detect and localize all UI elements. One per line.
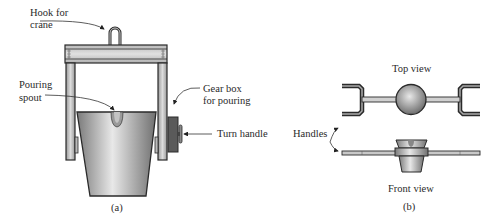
ladle-diagram: Hook for crane Pouring spout Gear box fo… (0, 0, 497, 224)
frame-left-leg (66, 63, 75, 160)
figure-a: Hook for crane Pouring spout Gear box fo… (19, 7, 268, 214)
label-turn-handle: Turn handle (217, 128, 268, 139)
frame-top-beam (65, 45, 167, 63)
front-view (342, 140, 480, 172)
label-top-view: Top view (392, 63, 432, 74)
caption-b: (b) (403, 201, 416, 213)
frame-right-leg (158, 63, 167, 160)
label-hook-line1: Hook for (30, 7, 69, 18)
label-front-view: Front view (388, 183, 434, 194)
label-gear-line2: for pouring (203, 95, 251, 106)
label-handles: Handles (293, 128, 327, 139)
top-view (342, 85, 480, 115)
label-gear-line1: Gear box (203, 83, 243, 94)
figure-b: Top view Handles Front view (b) (293, 63, 480, 213)
caption-a: (a) (111, 202, 123, 214)
label-spout-line2: spout (19, 92, 42, 103)
ladle-top-view (396, 85, 426, 115)
label-spout-line1: Pouring (19, 79, 53, 90)
gearbox (168, 117, 178, 152)
label-hook-line2: crane (30, 19, 53, 30)
crane-hook-icon (110, 28, 120, 45)
